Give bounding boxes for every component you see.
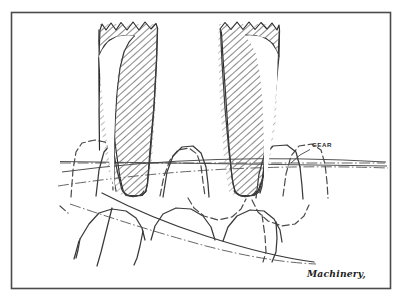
gear-label: GEAR: [312, 141, 332, 148]
right-tooth-hatching: [216, 20, 284, 200]
gear-cutting-figure: GEAR Machinery,: [0, 0, 403, 301]
machinery-signature: Machinery,: [306, 268, 366, 279]
gear-profile-dashed-lower: [60, 198, 309, 226]
technical-drawing-canvas: GEAR Machinery,: [0, 0, 403, 301]
plate-border: [12, 13, 391, 289]
gear-profile-solid-lower: [76, 208, 282, 258]
left-tooth-hatching: [96, 20, 162, 200]
pitch-arc-lower: [58, 167, 388, 186]
